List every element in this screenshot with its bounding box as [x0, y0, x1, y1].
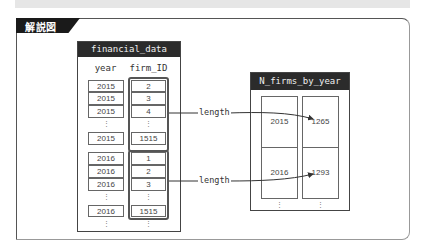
firm-id-cell: 2: [131, 80, 166, 92]
year-cell: 2016: [88, 205, 124, 217]
financial-data-title: financial_data: [78, 42, 180, 57]
diagram-frame: [16, 18, 410, 240]
ellipsis: ⋮: [302, 202, 339, 209]
ellipsis: ⋮: [131, 194, 166, 201]
n-firms-by-year-title: N_firms_by_year: [251, 73, 349, 90]
year-cell: 2016: [88, 152, 124, 165]
firm-id-cell: 1: [131, 152, 166, 165]
year-cell: 2015: [261, 96, 298, 148]
ellipsis: ⋮: [88, 221, 124, 228]
top-band: [15, 0, 410, 8]
ellipsis: ⋮: [88, 121, 124, 128]
ellipsis: ⋮: [261, 202, 298, 209]
year-cell: 2015: [88, 92, 124, 105]
ellipsis: ⋮: [131, 221, 166, 228]
year-cell: 2015: [88, 80, 124, 92]
diagram-tab-label: 解説図: [25, 19, 57, 34]
column-header-firm-id: firm_ID: [128, 63, 169, 73]
year-cell: 2016: [88, 178, 124, 191]
firm-id-cell: 3: [131, 92, 166, 105]
length-label: length: [198, 107, 231, 117]
year-cell: 2016: [261, 147, 298, 199]
column-header-year: year: [87, 63, 124, 73]
year-cell: 2015: [88, 105, 124, 118]
year-cell: 2015: [88, 132, 124, 145]
year-cell: 2016: [88, 165, 124, 178]
firm-id-cell: 1515: [131, 132, 166, 145]
length-label: length: [198, 175, 231, 185]
ellipsis: ⋮: [131, 121, 166, 128]
ellipsis: ⋮: [88, 194, 124, 201]
firm-id-cell: 3: [131, 178, 166, 191]
firm-id-cell: 4: [131, 105, 166, 118]
count-cell: 1265: [302, 96, 339, 148]
firm-id-cell: 1515: [131, 205, 166, 217]
firm-id-cell: 2: [131, 165, 166, 178]
count-cell: 1293: [302, 147, 339, 199]
